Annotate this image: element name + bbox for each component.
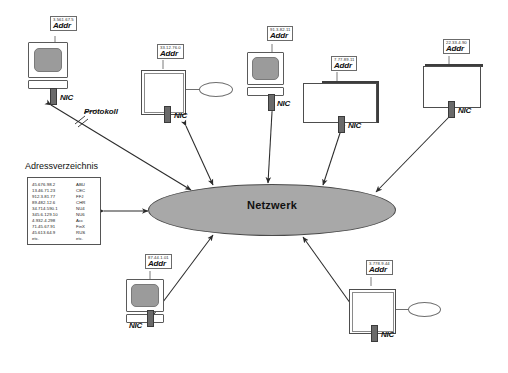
node-4-nic[interactable] [338,116,345,133]
node-6-nic[interactable] [147,310,154,327]
node-1-screen [34,48,62,72]
protocol-label: Protokoll [84,107,118,116]
link-node-2 [186,126,213,185]
node-1-address-callout: 3.561.67.5 Addr [50,16,77,31]
node-3-addr-word: Addr [270,32,290,40]
link-node-5 [376,117,449,192]
directory-title: Adressverzeichnis [25,161,98,171]
node-7-address-callout: 3.778.9.44 Addr [366,260,393,275]
node-3-monitor [247,52,284,85]
node-1-nic-label: NIC [60,93,73,102]
network-label: Netzwerk [148,199,396,211]
node-6-address-callout: 87.44.1.01 Addr [145,254,172,269]
node-3-nic-label: NIC [277,99,290,108]
directory-name: etc. [76,236,96,242]
node-4-address-callout: 7.77.89.11 Addr [331,56,357,71]
node-5-nic-label: NIC [458,106,471,115]
directory-address: etc. [32,236,39,242]
node-1-addr-word: Addr [53,22,74,30]
address-directory[interactable]: 45.676.98.2 ABU 13.46.71.23 CEC 912.3.81… [27,177,101,245]
node-1-nic[interactable] [50,88,57,105]
node-7-addr-word: Addr [369,266,390,274]
node-2-address-callout: 33.12.76.0 Addr [157,44,184,59]
link-node-4 [323,130,341,185]
node-7-nic[interactable] [371,325,378,342]
node-2-nic[interactable] [164,106,171,123]
node-5-address-callout: 22.33.4.90 Addr [443,39,470,54]
network-diagram-canvas: 3.561.67.5 Addr NIC 33.12.76.0 Addr NIC … [0,0,508,373]
node-4-nic-label: NIC [348,121,361,130]
node-2-addr-word: Addr [160,50,181,58]
link-node-3 [268,112,272,183]
node-3-address-callout: 91.3.82.11 Addr [267,26,293,41]
directory-row: etc. etc. [32,236,96,242]
protocol-marker [75,116,88,127]
node-6-addr-word: Addr [148,260,169,268]
node-6-monitor [126,279,164,312]
node-7-disk [408,302,441,317]
node-7-nic-label: NIC [381,330,394,339]
node-1-monitor [28,42,68,78]
node-2-disk-cable [186,89,200,90]
node-1-base [28,80,68,89]
node-2-disk [199,82,233,97]
node-5-addr-word: Addr [446,45,467,53]
node-6-nic-label: NIC [129,321,142,330]
node-3-nic[interactable] [268,94,275,111]
node-3-screen [252,57,279,80]
node-2-nic-label: NIC [174,111,187,120]
node-6-screen [131,284,159,307]
node-4-addr-word: Addr [334,62,354,70]
node-3-base [247,87,284,96]
node-5-nic[interactable] [448,101,455,118]
